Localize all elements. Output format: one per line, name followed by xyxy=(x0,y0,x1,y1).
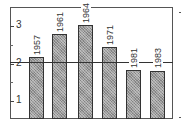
bar-label-1983: 1983 xyxy=(153,48,163,68)
y-tick-3 xyxy=(10,26,14,27)
bar-label-1961: 1961 xyxy=(55,12,65,32)
bar-1961 xyxy=(52,34,67,119)
bar-1957 xyxy=(29,57,44,119)
y-tick-1 xyxy=(10,101,14,102)
bar-label-1971: 1971 xyxy=(105,25,115,45)
y-tick-2 xyxy=(10,64,14,65)
bar-label-1957: 1957 xyxy=(32,35,42,55)
bar-1981 xyxy=(126,70,141,119)
reference-line xyxy=(10,62,173,63)
edge-mark xyxy=(179,117,181,118)
edge-mark xyxy=(179,12,181,13)
bar-1971 xyxy=(102,47,117,119)
y-label-3: 3 xyxy=(16,20,22,30)
bar-label-1964: 1964 xyxy=(81,3,91,23)
y-minor-tick xyxy=(10,82,13,83)
y-minor-tick xyxy=(10,45,13,46)
bar-1983 xyxy=(150,71,165,119)
y-label-1: 1 xyxy=(16,95,22,105)
bar-1964 xyxy=(78,25,93,119)
bar-label-1981: 1981 xyxy=(129,48,139,68)
y-label-2: 2 xyxy=(16,58,22,68)
